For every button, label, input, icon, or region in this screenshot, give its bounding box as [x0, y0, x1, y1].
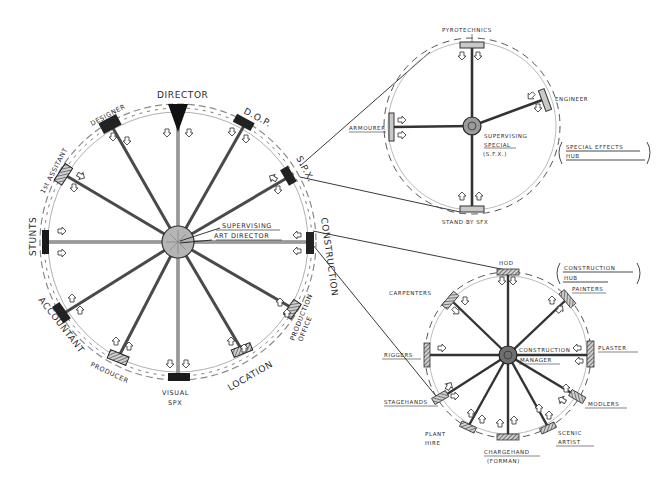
production-structure-diagram: SUPERVISING ART DIRECTOR DIRECTOR D.O.P.…	[0, 0, 670, 486]
main-wheel: SUPERVISING ART DIRECTOR DIRECTOR D.O.P.…	[28, 90, 340, 407]
scenic-artist-block	[539, 422, 556, 434]
special-effects-hub: SUPERVISING SPECIAL (S.F.X.) PYROTECHNIC…	[349, 27, 650, 225]
visual-spx-block	[168, 373, 190, 381]
label-armourer: ARMOURER	[349, 125, 386, 131]
label-chargehand-2: (FORMAN)	[487, 458, 520, 464]
label-scenic-artist-1: SCENIC	[558, 430, 582, 436]
spx-block	[280, 166, 297, 186]
label-visual-spx-2: SPX	[168, 399, 182, 407]
construction-hub-label-1: CONSTRUCTION	[519, 347, 570, 353]
label-scenic-artist-2: ARTIST	[558, 439, 581, 445]
label-painters: PAINTERS	[572, 286, 603, 292]
construction-hub-center	[499, 346, 517, 364]
sfx-title-line2: HUB	[566, 153, 580, 159]
label-hod: HOD	[499, 260, 514, 266]
label-stagehands: STAGEHANDS	[384, 399, 428, 405]
sfx-hub-center	[463, 117, 481, 135]
construction-title-line1: CONSTRUCTION	[564, 265, 615, 271]
producer-block	[107, 350, 129, 366]
standby-sfx-block	[460, 206, 484, 212]
chargehand-block	[497, 434, 519, 440]
label-standby-sfx: STAND BY SFX	[442, 219, 489, 225]
construction-block	[306, 232, 314, 254]
plaster-block	[587, 341, 594, 367]
label-director: DIRECTOR	[157, 90, 208, 100]
sfx-hub-label-1: SUPERVISING	[484, 133, 527, 139]
label-spx: S.P.X.	[294, 154, 316, 184]
construction-title-line2: HUB	[564, 275, 578, 281]
label-engineer: ENGINEER	[555, 96, 588, 102]
director-block	[168, 104, 188, 132]
riggers-block	[424, 343, 430, 367]
construction-hub-label-2: MANAGER	[520, 357, 552, 363]
pyrotechnics-block	[460, 42, 484, 48]
construction-hub: CONSTRUCTION MANAGER HOD PAINTERS PLASTE…	[382, 260, 640, 464]
sfx-title-line1: SPECIAL EFFECTS	[566, 144, 623, 150]
label-plant-hire-2: HIRE	[425, 440, 440, 446]
label-plaster: PLASTER	[598, 345, 627, 351]
stunts-block	[42, 230, 49, 254]
label-carpenters: CARPENTERS	[389, 290, 431, 296]
label-riggers: RIGGERS	[384, 352, 413, 358]
label-chargehand-1: CHARGEHAND	[484, 449, 530, 455]
hod-block	[497, 269, 519, 275]
sfx-hub-label-2: SPECIAL	[484, 142, 511, 148]
sfx-hub-label-3: (S.F.X.)	[483, 151, 507, 157]
armourer-block	[389, 113, 394, 141]
hub-label-line2: ART DIRECTOR	[214, 232, 269, 240]
label-modelers: MODLERS	[588, 401, 619, 407]
label-stunts: STUNTS	[28, 217, 38, 256]
label-pyrotechnics: PYROTECHNICS	[442, 27, 492, 33]
hub-label-line1: SUPERVISING	[222, 222, 272, 230]
label-visual-spx-1: VISUAL	[162, 389, 189, 397]
label-plant-hire-1: PLANT	[425, 431, 446, 437]
